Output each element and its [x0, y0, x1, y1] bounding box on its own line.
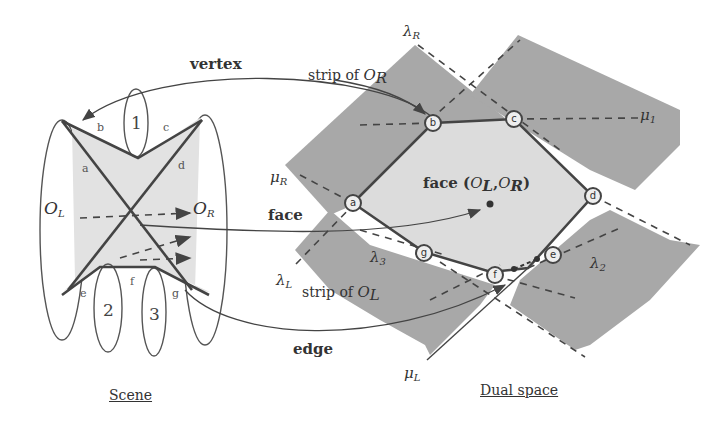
scene-edge-e: e	[80, 288, 87, 299]
scene-edge-f: f	[130, 276, 134, 287]
face-point	[487, 201, 494, 208]
face-label: face	[268, 208, 303, 223]
scene-edge-b: b	[97, 122, 104, 133]
lambda-r-label: λR	[403, 24, 420, 41]
lambda-l-label: λL	[276, 273, 292, 290]
dual-vertex-e: e	[544, 246, 562, 264]
strip-of-or-label: strip of OR	[308, 68, 387, 86]
vertex-label: vertex	[190, 57, 242, 72]
scene-caption: Scene	[109, 388, 152, 402]
edge-label: edge	[293, 342, 333, 357]
scene-edge-c: c	[163, 122, 169, 133]
scene-edge-g: g	[172, 288, 179, 299]
ol-label: OL	[44, 200, 65, 219]
or-label: OR	[193, 200, 214, 219]
mu-r-label: μR	[270, 170, 287, 187]
scene-edge-a: a	[82, 163, 89, 174]
lambda-3-label: λ3	[370, 250, 386, 267]
strip-of-ol-label: strip of OL	[302, 285, 380, 303]
object-2-label: 2	[103, 302, 114, 319]
mu-l-label: μL	[404, 366, 420, 383]
dual-vertex-a: a	[344, 194, 362, 212]
mu-1-label: μ1	[640, 108, 656, 125]
dual-vertex-c: c	[505, 110, 523, 128]
dual-vertex-b: b	[424, 114, 442, 132]
dual-vertex-g: g	[415, 244, 433, 262]
scene-edge-d: d	[178, 160, 185, 171]
dual-vertex-f: f	[486, 266, 504, 284]
lambda-2-label: λ2	[590, 256, 606, 273]
object-3-label: 3	[149, 306, 160, 323]
dual-vertex-d: d	[584, 187, 602, 205]
object-1-label: 1	[131, 115, 142, 132]
face-ol-or-label: face (OL,OR)	[423, 176, 530, 194]
dual-space-caption: Dual space	[480, 383, 558, 397]
